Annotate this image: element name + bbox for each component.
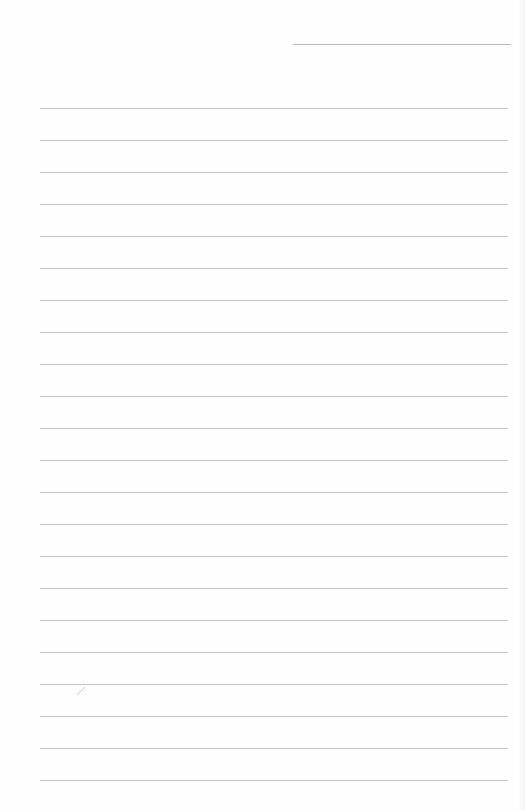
ruled-line (40, 588, 508, 589)
ruled-line (40, 492, 508, 493)
ruled-line (40, 556, 508, 557)
ruled-line (40, 620, 508, 621)
ruled-line (40, 204, 508, 205)
ruled-line (40, 172, 508, 173)
ruled-line (40, 684, 508, 685)
ruled-line (40, 716, 508, 717)
ruled-line (40, 268, 508, 269)
ruled-line (40, 332, 508, 333)
ruled-line (40, 524, 508, 525)
ruled-line (40, 748, 508, 749)
pen-mark-icon (76, 686, 86, 696)
ruled-line (40, 236, 508, 237)
ruled-line (40, 108, 508, 109)
header-date-line (293, 44, 511, 45)
ruled-line (40, 460, 508, 461)
lined-paper-page (0, 0, 525, 810)
ruled-line (40, 428, 508, 429)
ruled-line (40, 364, 508, 365)
ruled-line (40, 396, 508, 397)
ruled-line (40, 140, 508, 141)
ruled-line (40, 780, 508, 781)
ruled-line (40, 300, 508, 301)
ruled-line (40, 652, 508, 653)
page-edge-shadow (517, 0, 525, 810)
